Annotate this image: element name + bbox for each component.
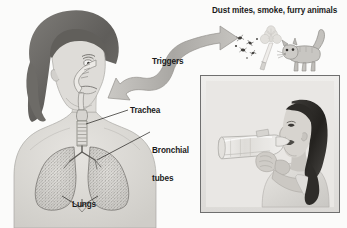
triggers-list-title: Dust mites, smoke, furry animals — [212, 6, 337, 15]
bronchial-tubes-label-line1: Bronchial — [152, 146, 189, 155]
lungs-label: Lungs — [72, 200, 96, 209]
bronchial-tubes-label-line2: tubes — [152, 174, 189, 183]
asthma-illustration: Dust mites, smoke, furry animals Trigger… — [0, 0, 347, 228]
cigarette-smoke-icon — [260, 26, 281, 70]
cat-icon — [277, 30, 325, 71]
girl-using-inhaler-photo — [200, 75, 340, 213]
dust-mites-icon — [235, 35, 258, 59]
triggers-label: Triggers — [152, 57, 184, 66]
photo-content — [201, 76, 339, 212]
bronchial-tubes-label: Bronchial tubes — [152, 128, 189, 202]
trachea-label: Trachea — [130, 106, 160, 115]
